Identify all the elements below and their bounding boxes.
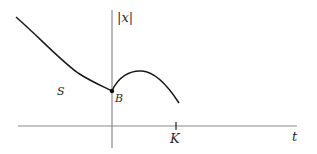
region-s-label: S (57, 85, 65, 98)
diagram-canvas: |x| t B K S (0, 0, 317, 154)
k-label: K (169, 131, 181, 146)
point-b-label: B (114, 92, 123, 105)
horizontal-axis-label: t (292, 129, 298, 144)
point-b-marker (110, 89, 114, 93)
vertical-axis-label: |x| (117, 10, 133, 25)
left-curve (16, 17, 112, 91)
